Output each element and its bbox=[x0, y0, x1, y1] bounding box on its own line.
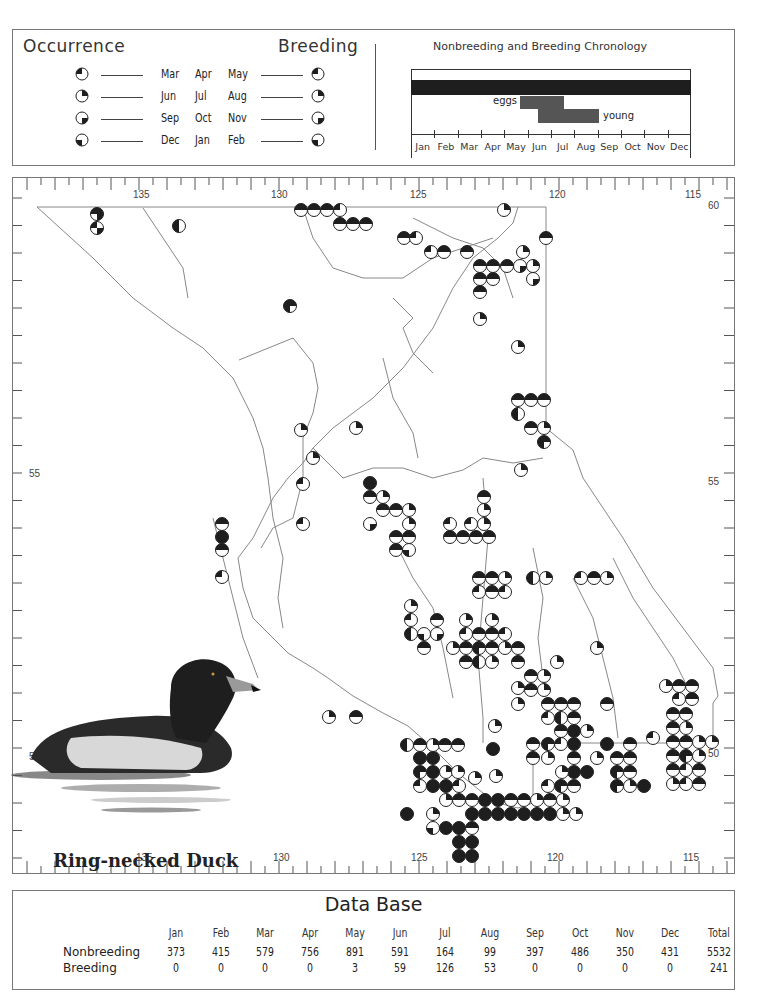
table-cell: 350 bbox=[609, 945, 640, 959]
occurrence-marker-icon bbox=[588, 572, 601, 585]
occurrence-marker-icon bbox=[460, 642, 473, 655]
table-cell: 591 bbox=[384, 945, 415, 959]
lon-label-top-130: 130 bbox=[271, 189, 288, 200]
occurrence-marker-icon bbox=[452, 766, 465, 779]
occurrence-marker-icon bbox=[75, 89, 89, 103]
occurrence-marker-icon bbox=[531, 808, 544, 821]
occurrence-marker-icon bbox=[518, 794, 531, 807]
eggs-bar bbox=[520, 96, 564, 109]
occurrence-marker-icon bbox=[414, 752, 427, 765]
breeding-title: Breeding bbox=[278, 36, 358, 56]
table-cell: 3 bbox=[339, 961, 370, 975]
occurrence-marker-icon bbox=[492, 794, 505, 807]
occurrence-marker-icon bbox=[680, 750, 693, 763]
occurrence-marker-icon bbox=[555, 712, 568, 725]
occurrence-marker-icon bbox=[667, 708, 680, 721]
chronology-month: May bbox=[504, 141, 527, 152]
chronology-tick bbox=[504, 130, 505, 138]
occurrence-marker-icon bbox=[479, 808, 492, 821]
occurrence-marker-icon bbox=[673, 693, 686, 706]
occurrence-marker-icon bbox=[486, 628, 499, 641]
occurrence-marker-icon bbox=[568, 738, 581, 751]
occurrence-marker-icon bbox=[453, 822, 466, 835]
occurrence-marker-icon bbox=[297, 478, 310, 491]
occurrence-marker-icon bbox=[474, 286, 487, 299]
occurrence-marker-icon bbox=[611, 766, 624, 779]
column-header: Dec bbox=[654, 926, 685, 940]
occurrence-marker-icon bbox=[403, 531, 416, 544]
occurrence-marker-icon bbox=[414, 766, 427, 779]
occurrence-marker-icon bbox=[425, 246, 438, 259]
occurrence-marker-icon bbox=[453, 836, 466, 849]
occurrence-marker-icon bbox=[540, 572, 553, 585]
occurrence-marker-icon bbox=[667, 750, 680, 763]
occurrence-marker-icon bbox=[556, 766, 569, 779]
table-cell: 59 bbox=[384, 961, 415, 975]
occurrence-marker-icon bbox=[390, 504, 403, 517]
eggs-label: eggs bbox=[493, 95, 517, 106]
occurrence-marker-icon bbox=[439, 739, 452, 752]
occurrence-marker-icon bbox=[453, 780, 466, 793]
column-header: Feb bbox=[205, 926, 236, 940]
legend-month: Apr bbox=[195, 66, 228, 81]
table-cell: 415 bbox=[205, 945, 236, 959]
column-header: Jul bbox=[429, 926, 460, 940]
occurrence-marker-icon bbox=[538, 422, 551, 435]
chronology-month: Feb bbox=[434, 141, 457, 152]
table-cell: 0 bbox=[519, 961, 550, 975]
occurrence-marker-icon bbox=[538, 436, 551, 449]
lon-label-bottom-130: 130 bbox=[273, 852, 290, 863]
table-cell: 0 bbox=[564, 961, 595, 975]
occurrence-marker-icon bbox=[418, 628, 431, 641]
occurrence-marker-icon bbox=[527, 738, 540, 751]
legend-month: Oct bbox=[195, 110, 228, 125]
occurrence-marker-icon bbox=[667, 736, 680, 749]
occurrence-marker-icon bbox=[555, 725, 568, 738]
occurrence-marker-icon bbox=[216, 518, 229, 531]
occurrence-marker-icon bbox=[512, 698, 525, 711]
occurrence-marker-icon bbox=[460, 656, 473, 669]
database-title: Data Base bbox=[13, 893, 734, 915]
occurrence-marker-icon bbox=[173, 220, 186, 233]
occurrence-marker-icon bbox=[91, 222, 104, 235]
chronology-tick bbox=[458, 130, 459, 138]
occurrence-marker-icon bbox=[427, 808, 440, 821]
occurrence-marker-icon bbox=[334, 218, 347, 231]
occurrence-marker-icon bbox=[706, 736, 719, 749]
occurrence-marker-icon bbox=[364, 491, 377, 504]
occurrence-marker-icon bbox=[501, 260, 514, 273]
occurrence-marker-icon bbox=[568, 698, 581, 711]
occurrence-marker-icon bbox=[660, 680, 673, 693]
occurrence-marker-icon bbox=[364, 518, 377, 531]
legend-line bbox=[101, 75, 143, 76]
occurrence-marker-icon bbox=[483, 531, 496, 544]
occurrence-marker-icon bbox=[680, 764, 693, 777]
database-panel: Data Base JanFebMarAprMayJunJulAugSepOct… bbox=[12, 890, 735, 990]
occurrence-marker-icon bbox=[680, 736, 693, 749]
occurrence-marker-icon bbox=[297, 518, 310, 531]
occurrence-marker-icon bbox=[673, 680, 686, 693]
table-cell: 241 bbox=[703, 961, 734, 975]
legend-line bbox=[101, 141, 143, 142]
occurrence-marker-icon bbox=[308, 204, 321, 217]
occurrence-marker-icon bbox=[405, 600, 418, 613]
occurrence-marker-icon bbox=[474, 273, 487, 286]
occurrence-marker-icon bbox=[568, 752, 581, 765]
occurrence-marker-icon bbox=[624, 766, 637, 779]
occurrence-marker-icon bbox=[216, 531, 229, 544]
occurrence-marker-icon bbox=[680, 778, 693, 791]
occurrence-marker-icon bbox=[512, 642, 525, 655]
occurrence-marker-icon bbox=[473, 642, 486, 655]
occurrence-marker-icon bbox=[527, 572, 540, 585]
lon-label-bottom-120: 120 bbox=[547, 852, 564, 863]
table-cell: 486 bbox=[564, 945, 595, 959]
occurrence-marker-icon bbox=[487, 273, 500, 286]
occurrence-marker-icon bbox=[542, 752, 555, 765]
occurrence-marker-icon bbox=[680, 722, 693, 735]
occurrence-marker-icon bbox=[693, 736, 706, 749]
lat-label-right-60: 60 bbox=[708, 200, 719, 211]
chronology-month: Jan bbox=[411, 141, 434, 152]
occurrence-marker-icon bbox=[518, 808, 531, 821]
occurrence-marker-icon bbox=[486, 614, 499, 627]
lat-label-left-55: 55 bbox=[29, 468, 40, 479]
